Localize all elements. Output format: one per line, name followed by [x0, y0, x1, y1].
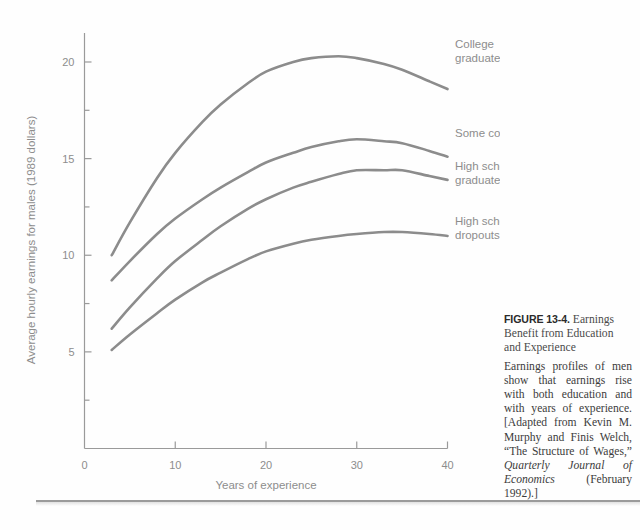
- caption-text-part1: Earnings profiles of men show that earni…: [504, 360, 632, 458]
- curve-high-school-dropouts: [112, 232, 448, 350]
- curve-college-graduates: [112, 56, 448, 255]
- x-tick-label: 0: [81, 459, 87, 471]
- x-axis-ticks: 010203040: [81, 442, 453, 471]
- x-tick-label: 30: [351, 459, 363, 471]
- page-bottom-rule-shadow: [36, 502, 640, 506]
- y-tick-label: 15: [62, 153, 74, 165]
- y-tick-label: 5: [68, 346, 74, 358]
- series-label-some-college: Some college: [455, 127, 500, 139]
- series-label-college-graduates: College: [455, 38, 494, 50]
- figure-number: FIGURE 13-4.: [504, 313, 570, 325]
- x-tick-label: 40: [441, 459, 453, 471]
- curve-some-college: [112, 139, 448, 280]
- data-curves: [112, 56, 448, 350]
- series-end-labels: CollegegraduatesSome collegeHigh schoolg…: [455, 38, 500, 241]
- figure-caption-heading: FIGURE 13-4. Earnings Benefit from Educa…: [504, 312, 632, 356]
- series-label-high-school-dropouts: dropouts: [455, 229, 500, 241]
- series-label-college-graduates: graduates: [455, 52, 500, 64]
- x-tick-label: 10: [169, 459, 181, 471]
- figure-caption-body: Earnings profiles of men show that earni…: [504, 360, 632, 502]
- curve-high-school-graduates: [112, 170, 448, 329]
- y-axis-title: Average hourly earnings for males (1989 …: [25, 116, 37, 365]
- chart-axes: [85, 33, 448, 449]
- figure-caption: FIGURE 13-4. Earnings Benefit from Educa…: [504, 312, 632, 502]
- series-label-high-school-graduates: High school: [455, 160, 500, 172]
- chart-figure: 5101520 010203040 CollegegraduatesSome c…: [0, 0, 500, 500]
- x-tick-label: 20: [260, 459, 272, 471]
- y-tick-label: 20: [62, 56, 74, 68]
- figure-page: 5101520 010203040 CollegegraduatesSome c…: [0, 0, 640, 530]
- series-label-high-school-dropouts: High school: [455, 215, 500, 227]
- y-axis-ticks: 5101520: [62, 56, 91, 400]
- earnings-experience-line-chart: 5101520 010203040 CollegegraduatesSome c…: [0, 0, 500, 500]
- y-tick-label: 10: [62, 249, 74, 261]
- x-axis-title: Years of experience: [215, 479, 316, 491]
- series-label-high-school-graduates: graduates: [455, 174, 500, 186]
